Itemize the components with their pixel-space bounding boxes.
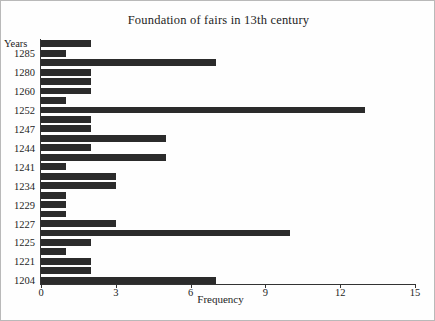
bar [41, 267, 91, 274]
y-axis-tick-label: 1244 [14, 142, 35, 153]
bar [41, 239, 91, 246]
bar [41, 277, 216, 284]
bar [41, 258, 91, 265]
x-axis-title: Frequency [197, 293, 243, 305]
bar [41, 135, 166, 142]
chart-title: Foundation of fairs in 13th century [1, 13, 435, 28]
x-axis-tick-label: 3 [113, 287, 118, 298]
bar [41, 116, 91, 123]
bar [41, 211, 66, 218]
y-axis-tick-label: 1247 [14, 123, 35, 134]
bar [41, 182, 116, 189]
bar [41, 220, 116, 227]
y-axis-tick-label: 1221 [14, 256, 35, 267]
x-axis-tick [191, 284, 192, 288]
y-axis-tick-label: 1229 [14, 199, 35, 210]
x-axis-tick [340, 284, 341, 288]
bar [41, 192, 66, 199]
y-axis-tick-label: 1280 [14, 67, 35, 78]
x-axis-tick-label: 0 [38, 287, 43, 298]
bar [41, 125, 91, 132]
x-axis-tick-label: 9 [263, 287, 268, 298]
y-axis-tick-labels: 1285128012601252124712441241123412291227… [1, 39, 38, 285]
bar [41, 78, 91, 85]
y-axis-tick-label: 1260 [14, 86, 35, 97]
bar [41, 248, 66, 255]
y-axis-tick-label: 1225 [14, 237, 35, 248]
bar [41, 97, 66, 104]
y-axis-tick-label: 1241 [14, 161, 35, 172]
x-axis-line [40, 284, 415, 285]
y-axis-tick-label: 1234 [14, 180, 35, 191]
x-axis-tick-label: 12 [335, 287, 346, 298]
x-axis-tick-label: 15 [410, 287, 421, 298]
bar [41, 88, 91, 95]
bar [41, 201, 66, 208]
bar [41, 154, 166, 161]
bar [41, 163, 66, 170]
bar [41, 40, 91, 47]
x-axis-tick [116, 284, 117, 288]
bar [41, 50, 66, 57]
bar [41, 144, 91, 151]
y-axis-tick-label: 1252 [14, 104, 35, 115]
y-axis-tick-label: 1227 [14, 218, 35, 229]
bar [41, 173, 116, 180]
bar [41, 107, 365, 114]
x-axis-tick [41, 284, 42, 288]
chart-page: Foundation of fairs in 13th century Year… [0, 0, 435, 321]
y-axis-tick-label: 1204 [14, 275, 35, 286]
x-axis-tick-label: 6 [188, 287, 193, 298]
plot-area [41, 39, 415, 285]
y-axis-tick-label: 1285 [14, 48, 35, 59]
y-axis-line [40, 39, 41, 285]
bar [41, 59, 216, 66]
x-axis-tick [265, 284, 266, 288]
bar [41, 230, 290, 237]
x-axis-tick [415, 284, 416, 288]
bar [41, 69, 91, 76]
